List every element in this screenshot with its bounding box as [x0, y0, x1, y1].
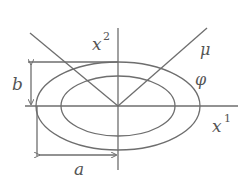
x2-superscript: 2 — [103, 30, 110, 43]
phi-label: φ — [195, 70, 207, 89]
left-cone-line — [30, 33, 118, 106]
b-label: b — [12, 74, 23, 94]
x1-label: x — [212, 116, 222, 136]
mu-label: μ — [200, 40, 210, 59]
x2-label: x — [92, 34, 102, 54]
mu-line — [118, 28, 207, 106]
a-label: a — [74, 159, 84, 179]
x1-superscript: 1 — [224, 112, 231, 125]
ellipse-diagram: x 2 x 1 μ φ b a — [0, 0, 249, 184]
